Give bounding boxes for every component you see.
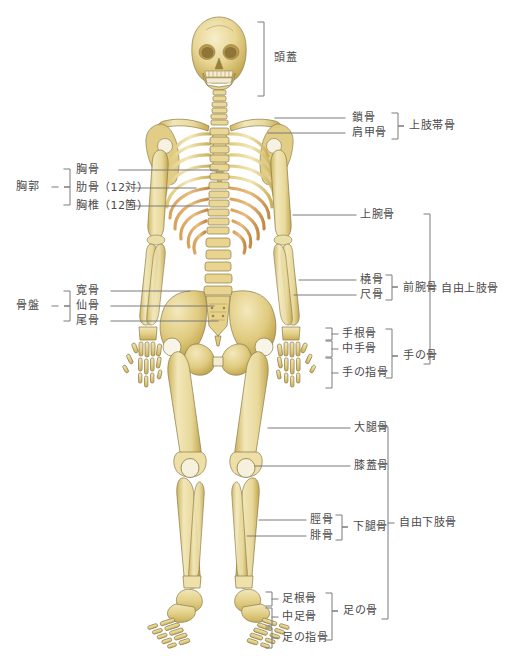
label-clavicle: 鎖骨	[352, 112, 375, 124]
label-shoulder-girdle: 上肢帯骨	[409, 120, 455, 132]
femur-graphic	[168, 352, 268, 477]
lower-leg-graphic	[177, 478, 260, 588]
skeleton-diagram: 頭蓋 鎖骨 肩甲骨 上肢帯骨 胸郭 胸骨 肋骨（12対） 胸椎（12箇） 上腕骨…	[0, 0, 526, 663]
label-ribs: 肋骨（12対）	[76, 182, 149, 194]
cervical-spine-graphic	[211, 90, 228, 125]
bracket-shoulder-girdle	[392, 113, 404, 139]
label-radius: 橈骨	[360, 274, 383, 286]
label-fibula: 腓骨	[310, 530, 333, 542]
label-metatarsals: 中足骨	[282, 611, 317, 623]
label-metacarpals: 中手骨	[342, 343, 377, 355]
label-pelvis: 骨盤	[16, 300, 39, 312]
label-sacrum: 仙骨	[76, 300, 99, 312]
vertebral-column-graphic	[204, 128, 232, 295]
label-thoracic-vertebrae: 胸椎（12箇）	[76, 200, 149, 212]
label-hand-bones: 手の骨	[403, 350, 438, 362]
patella-graphic	[181, 459, 255, 478]
bracket-lower-leg	[336, 515, 348, 540]
bracket-thorax-inner	[64, 169, 70, 205]
bracket-skull	[258, 22, 264, 96]
label-tibia: 脛骨	[310, 514, 333, 526]
label-foot-bones: 足の骨	[343, 605, 378, 617]
label-tarsals: 足根骨	[282, 593, 317, 605]
label-patella: 膝蓋骨	[354, 460, 389, 472]
bracket-tarsals	[266, 592, 272, 606]
label-free-upper-limb: 自由上肢骨	[441, 283, 499, 295]
label-carpals: 手根骨	[342, 328, 377, 340]
label-lower-leg-bones: 下腿骨	[353, 521, 388, 533]
label-femur: 大腿骨	[354, 422, 389, 434]
label-foot-phalanges: 足の指骨	[282, 632, 328, 644]
label-sternum: 胸骨	[76, 164, 99, 176]
skull-graphic	[192, 17, 246, 90]
bracket-forearm	[386, 275, 398, 300]
bracket-carpals	[326, 328, 332, 340]
label-ulna: 尺骨	[360, 289, 383, 301]
bracket-hand-phalanges	[326, 358, 332, 388]
label-thorax: 胸郭	[16, 181, 39, 193]
label-scapula: 肩甲骨	[352, 127, 387, 139]
bracket-metacarpals	[326, 341, 332, 357]
label-skull: 頭蓋	[274, 52, 297, 64]
bracket-pelvis-inner	[64, 291, 70, 321]
skeleton-illustration	[0, 0, 526, 663]
label-forearm-bones: 前腕骨	[403, 282, 438, 294]
foot-graphic	[147, 589, 289, 652]
label-hip-bone: 寛骨	[76, 285, 99, 297]
label-hand-phalanges: 手の指骨	[342, 367, 388, 379]
label-coccyx: 尾骨	[76, 315, 99, 327]
label-free-lower-limb: 自由下肢骨	[399, 517, 457, 529]
label-humerus: 上腕骨	[360, 209, 395, 221]
